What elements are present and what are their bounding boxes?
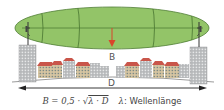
formula-radicand: λ · D: [88, 96, 108, 106]
formula-lhs: B = 0,5 · √: [42, 96, 88, 106]
label-b: B: [109, 53, 115, 62]
formula: B = 0,5 · √λ · Dλ: Wellenlänge: [0, 96, 224, 106]
formula-legend-text: : Wellenlänge: [124, 96, 182, 106]
label-d: D: [108, 79, 115, 88]
